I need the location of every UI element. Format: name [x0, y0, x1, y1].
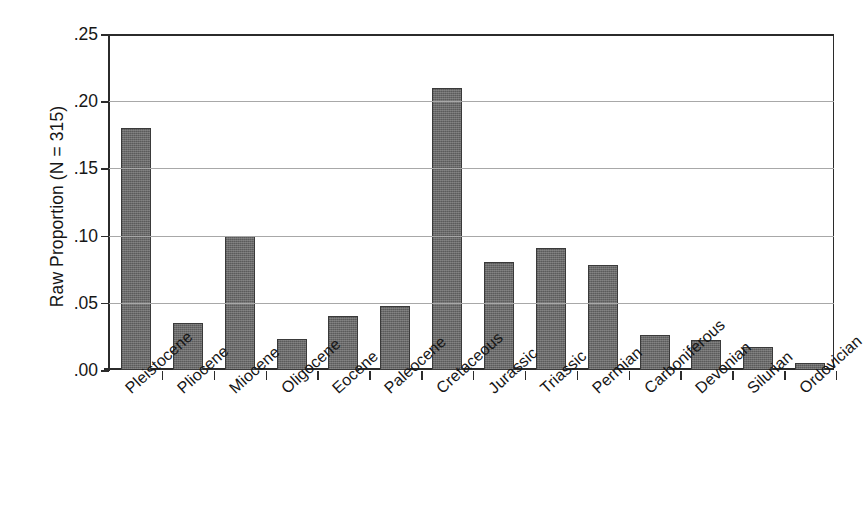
- gridline: [108, 303, 834, 304]
- y-axis-tick-label: .20: [42, 91, 98, 112]
- x-axis-tick-mark: [214, 371, 215, 380]
- x-axis-tick-labels: PleistocenePlioceneMioceneOligoceneEocen…: [108, 384, 848, 524]
- y-axis-tick-labels: .00.05.10.15.20.25: [32, 0, 98, 524]
- y-axis-tick-label: .25: [42, 24, 98, 45]
- x-axis-tick-mark: [421, 371, 422, 380]
- bar: [588, 265, 618, 370]
- y-axis-tick-mark: [101, 168, 109, 170]
- y-axis-tick-label: .00: [42, 360, 98, 381]
- bar-series: [108, 34, 834, 370]
- x-axis-tick-mark: [577, 371, 578, 380]
- gridline: [108, 101, 834, 102]
- gridline: [108, 34, 834, 36]
- y-axis-tick-label: .05: [42, 292, 98, 313]
- gridline: [108, 236, 834, 237]
- x-axis-tick-mark: [836, 371, 837, 380]
- plot-area: [108, 34, 834, 370]
- x-axis-tick-mark: [369, 371, 370, 380]
- bar: [432, 88, 462, 370]
- bar: [536, 248, 566, 370]
- x-axis-tick-mark: [525, 371, 526, 380]
- bar: [121, 128, 151, 370]
- x-axis-tick-mark: [732, 371, 733, 380]
- y-axis-tick-mark: [101, 101, 109, 103]
- y-axis-tick-label: .10: [42, 225, 98, 246]
- gridline: [108, 168, 834, 169]
- x-axis-tick-mark: [473, 371, 474, 380]
- x-axis-tick-mark: [784, 371, 785, 380]
- y-axis-tick-mark: [101, 236, 109, 238]
- y-axis-tick-mark: [101, 34, 109, 36]
- y-axis-tick-mark: [101, 303, 109, 305]
- y-axis-tick-label: .15: [42, 158, 98, 179]
- x-axis-tick-mark: [162, 371, 163, 380]
